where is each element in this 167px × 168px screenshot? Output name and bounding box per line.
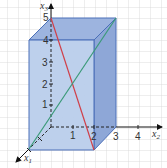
x3-tick-label-3: 3 — [42, 57, 48, 68]
x2-tick-label-4: 4 — [135, 131, 141, 142]
x3-tick-label-4: 4 — [43, 35, 49, 46]
x3-tick-label-2: 2 — [42, 79, 48, 90]
x2-tick-label-2: 2 — [91, 131, 97, 142]
coordinate-diagram: 5 4 3 2 1 1 2 3 4 x3 x2 x1 — [0, 0, 167, 168]
x3-tick-label-5: 5 — [43, 12, 49, 23]
x3-tick-label-1: 1 — [42, 99, 48, 110]
x2-tick-label-3: 3 — [113, 131, 119, 142]
x2-tick-label-1: 1 — [70, 130, 76, 141]
